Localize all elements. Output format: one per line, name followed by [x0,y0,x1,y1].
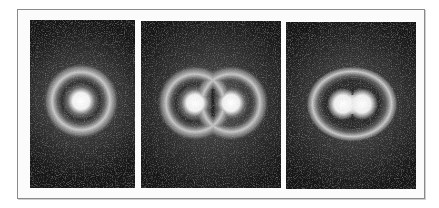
nodal-gap-bottom [352,114,354,123]
nodal-plane [212,89,215,117]
orbital-panel-two-atoms-close [286,22,416,189]
orbital-panel-two-atoms-separated [141,21,281,188]
atom-core-right [346,88,378,120]
nodal-gap-top [352,86,354,95]
merged-atom-density-image [286,22,416,189]
atom-density-right [193,65,269,141]
atom-density [43,63,119,139]
orbital-panel-single-atom [30,20,135,188]
two-atom-density-image [141,21,281,188]
single-atom-density-image [30,20,135,188]
